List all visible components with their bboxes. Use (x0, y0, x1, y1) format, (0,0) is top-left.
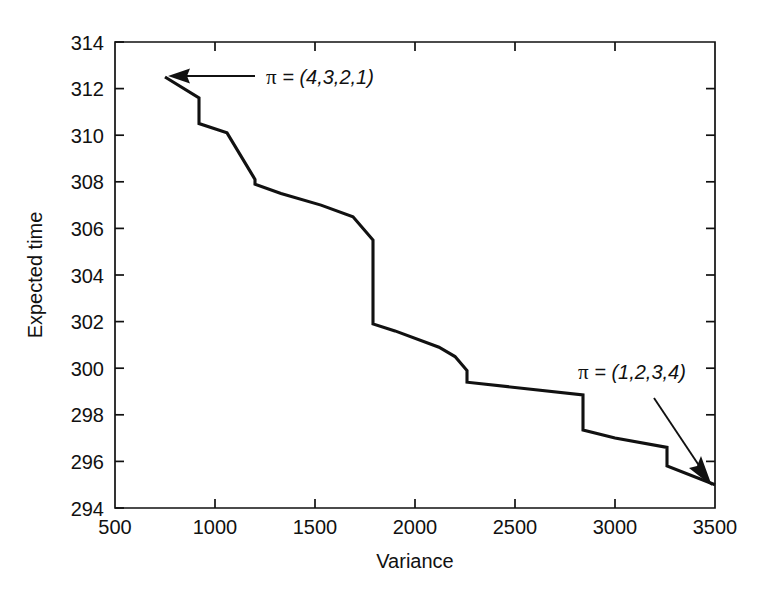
x-tick-label: 1000 (193, 516, 238, 538)
y-tick-label: 314 (71, 32, 104, 54)
y-tick-label: 312 (71, 78, 104, 100)
annotation-expression: = (4,3,2,1) (277, 66, 374, 88)
x-tick-label: 1500 (293, 516, 338, 538)
x-axis-title: Variance (376, 550, 453, 572)
pi-symbol: π (266, 65, 277, 89)
y-tick-label: 298 (71, 404, 104, 426)
chart-figure: 314 312 310 308 306 304 302 300 298 296 … (0, 0, 767, 591)
x-tick-label: 3500 (693, 516, 738, 538)
y-tick-label: 308 (71, 171, 104, 193)
y-tick-label: 304 (71, 265, 104, 287)
y-tick-label: 300 (71, 358, 104, 380)
x-tick-label: 500 (98, 516, 131, 538)
y-tick-label: 306 (71, 218, 104, 240)
y-tick-label: 310 (71, 125, 104, 147)
annotation-label: π = (4,3,2,1) (266, 65, 374, 89)
y-axis-title: Expected time (24, 212, 46, 339)
expected-time-vs-variance-chart: 314 312 310 308 306 304 302 300 298 296 … (0, 0, 767, 591)
y-tick-label: 302 (71, 311, 104, 333)
y-tick-label: 296 (71, 451, 104, 473)
x-tick-label: 3000 (593, 516, 638, 538)
pi-symbol: π (578, 360, 589, 384)
x-tick-label: 2500 (493, 516, 538, 538)
annotation-expression: = (1,2,3,4) (589, 361, 686, 383)
x-tick-label: 2000 (393, 516, 438, 538)
annotation-label: π = (1,2,3,4) (578, 360, 686, 384)
